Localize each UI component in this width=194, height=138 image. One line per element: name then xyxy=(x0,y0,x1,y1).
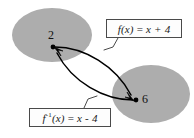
function-mapping-figure: 2 6 f(x) = x + 4 f-1(x) = x - 4 xyxy=(0,0,194,138)
forward-function-label-box: f(x) = x + 4 xyxy=(106,19,182,38)
inverse-label-leader-line xyxy=(84,96,97,108)
inverse-function-equation: f-1(x) = x - 4 xyxy=(42,111,97,124)
node-label-2: 2 xyxy=(48,28,54,43)
forward-function-argument: (x) xyxy=(121,23,134,35)
inverse-function-label-box: f-1(x) = x - 4 xyxy=(29,108,111,127)
node-label-6: 6 xyxy=(142,92,148,107)
inverse-function-expression: x - 4 xyxy=(77,112,98,124)
right-oval-range-set xyxy=(112,65,190,123)
forward-function-equation: f(x) = x + 4 xyxy=(118,23,171,35)
forward-equals-sign: = xyxy=(137,23,143,35)
forward-function-expression: x + 4 xyxy=(146,23,170,35)
inverse-equals-sign: = xyxy=(68,112,74,124)
node-dot-2 xyxy=(51,45,56,50)
forward-label-leader-line xyxy=(104,38,118,50)
node-dot-6 xyxy=(134,98,139,103)
inverse-function-argument: (x) xyxy=(52,112,65,124)
